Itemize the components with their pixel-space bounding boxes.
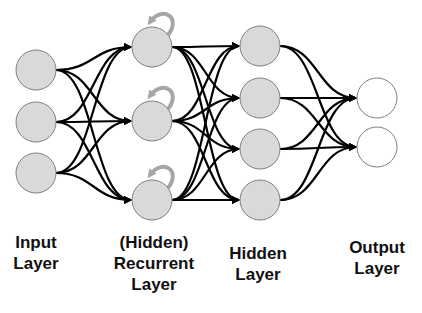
recurrent-node-1 bbox=[132, 27, 172, 67]
connection-edge bbox=[172, 47, 239, 98]
input-node-2 bbox=[16, 102, 56, 142]
connections bbox=[56, 46, 356, 200]
connection-edge bbox=[56, 47, 131, 173]
recurrent-node-2 bbox=[132, 101, 172, 141]
connection-edge bbox=[172, 149, 239, 200]
hidden-node-2 bbox=[240, 78, 280, 118]
input-node-1 bbox=[16, 50, 56, 90]
output-layer-label: Output Layer bbox=[344, 237, 410, 279]
recurrent-layer-label: (Hidden) Recurrent Layer bbox=[108, 232, 200, 295]
connection-edge bbox=[280, 98, 356, 149]
connection-edge bbox=[56, 121, 131, 173]
connection-edge bbox=[172, 121, 239, 200]
connection-edge bbox=[56, 70, 131, 200]
hidden-node-3 bbox=[240, 129, 280, 169]
hidden-node-1 bbox=[240, 26, 280, 66]
input-node-3 bbox=[16, 153, 56, 193]
connection-edge bbox=[280, 46, 356, 98]
hidden-node-4 bbox=[240, 180, 280, 220]
hidden-layer-label: Hidden Layer bbox=[226, 243, 290, 285]
input-layer-label: Input Layer bbox=[10, 232, 62, 274]
output-node-1 bbox=[357, 78, 397, 118]
output-node-2 bbox=[357, 127, 397, 167]
recurrent-node-3 bbox=[132, 180, 172, 220]
connection-edge bbox=[172, 46, 239, 47]
connection-edge bbox=[280, 147, 356, 200]
